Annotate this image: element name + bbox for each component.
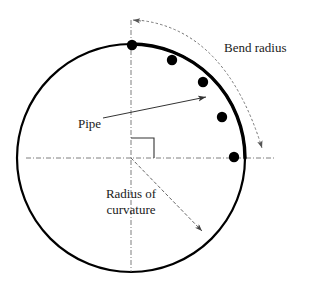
- pipe-leader-arrow: [103, 97, 206, 118]
- bend-radius-label: Bend radius: [224, 40, 286, 55]
- right-angle-marker: [131, 138, 154, 158]
- bend-radius-arc-start-arrow: [133, 20, 141, 21]
- radius-of-curvature-label-line1: Radius of: [106, 186, 157, 201]
- pipe-node: [217, 112, 227, 122]
- radius-of-curvature-label-line2: curvature: [106, 202, 155, 217]
- pipe-node: [167, 55, 177, 65]
- pipe-label: Pipe: [78, 116, 101, 131]
- pipe-node: [198, 77, 208, 87]
- pipe-node: [229, 152, 239, 162]
- diagram-canvas: Bend radius Pipe Radius of curvature: [0, 0, 311, 291]
- pipe-bend-radius-diagram: Bend radius Pipe Radius of curvature: [0, 0, 311, 291]
- pipe-node: [127, 40, 137, 50]
